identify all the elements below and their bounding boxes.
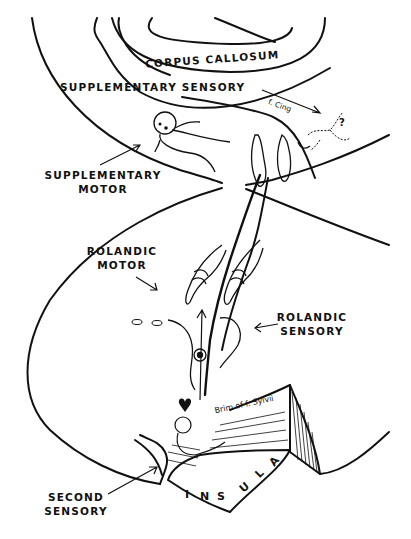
sensory-hand: [224, 240, 263, 304]
callosum-fold: [215, 18, 275, 42]
supplementary-homunculus-figure: [154, 112, 230, 172]
insula-letter-s: S: [217, 490, 225, 503]
face-region: [168, 318, 240, 390]
medial-feet: [252, 135, 310, 186]
rolandic-motor-arrow: [136, 277, 157, 290]
supplementary-left-curve: [135, 440, 162, 475]
homunculus-face: [159, 123, 168, 130]
lateral-hemisphere-outline: [28, 188, 223, 484]
supp-motor-arrow: [100, 145, 140, 165]
lateral-right-outline: [246, 189, 389, 245]
label-second-sensory: SECOND SENSORY: [36, 490, 116, 518]
label-rolandic-motor-line1: ROLANDIC: [82, 244, 162, 258]
label-question-mark: ?: [339, 117, 345, 128]
sylvian-brim: [140, 435, 167, 484]
label-second-sensory-line2: SENSORY: [36, 504, 116, 518]
label-supplementary-motor-line1: SUPPLEMENTARY: [43, 168, 163, 182]
insula-letter-i: I: [185, 488, 189, 501]
label-rolandic-sensory-line1: ROLANDIC: [272, 310, 352, 324]
label-rolandic-sensory: ROLANDIC SENSORY: [272, 310, 352, 338]
tongue-icon: [179, 398, 191, 412]
label-rolandic-sensory-line2: SENSORY: [272, 324, 352, 338]
label-supplementary-sensory: SUPPLEMENTARY SENSORY: [60, 80, 245, 94]
label-rolandic-motor-line2: MOTOR: [82, 258, 162, 272]
central-sulcus-left: [205, 175, 260, 395]
label-second-sensory-line1: SECOND: [36, 490, 116, 504]
insula-letter-n: N: [200, 490, 209, 503]
lower-right-outline: [320, 432, 389, 474]
second-sensory-homunculus: [175, 417, 225, 455]
label-supplementary-motor: SUPPLEMENTARY MOTOR: [43, 168, 163, 196]
eyes: [132, 320, 162, 326]
label-rolandic-motor: ROLANDIC MOTOR: [82, 244, 162, 272]
cortex-homunculus-diagram: CORPUS CALLOSUM SUPPLEMENTARY SENSORY f.…: [0, 0, 411, 539]
label-supplementary-motor-line2: MOTOR: [43, 182, 163, 196]
